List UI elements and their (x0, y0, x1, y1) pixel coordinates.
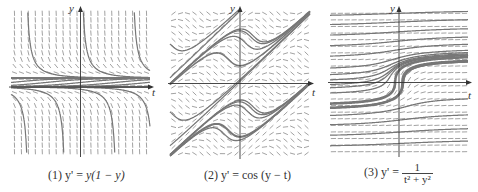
slope-field-plot-3 (318, 0, 478, 165)
fraction: 1t² + y² (402, 162, 433, 185)
panel-1-slope-field: y t (1) y' = y(1 − y) (0, 0, 160, 192)
t-axis-label: t (468, 89, 471, 101)
panel-3-slope-field: y t (3) y' = 1t² + y² (318, 0, 478, 192)
caption-2: (2) y' = cos (y − t) (204, 168, 291, 183)
y-axis-label: y (69, 2, 74, 14)
slope-field-plot-2 (160, 0, 320, 165)
y-axis-label: y (230, 2, 235, 14)
panel-2-slope-field: y t (2) y' = cos (y − t) (160, 0, 320, 192)
slope-field-plot-1 (0, 0, 160, 165)
t-axis-label: t (312, 86, 315, 98)
caption-1: (1) y' = y(1 − y) (48, 168, 125, 183)
y-axis-label: y (390, 2, 395, 14)
t-axis-label: t (152, 86, 155, 98)
caption-3: (3) y' = 1t² + y² (364, 162, 433, 185)
